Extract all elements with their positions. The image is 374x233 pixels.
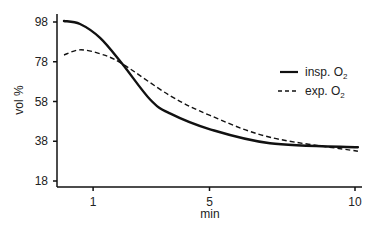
x-tick-label: 10 <box>348 195 362 209</box>
y-axis-title: vol % <box>12 85 26 115</box>
x-ticks: 1510 <box>90 187 362 209</box>
y-tick-label: 78 <box>35 55 49 69</box>
x-axis-title: min <box>200 207 219 221</box>
legend-item-exp-o2: exp. O2 <box>278 84 345 100</box>
x-tick-label: 1 <box>90 195 97 209</box>
y-tick-label: 58 <box>35 95 49 109</box>
y-ticks: 1838587898 <box>35 15 57 188</box>
oxygen-concentration-chart: 1838587898 1510 vol % min insp. O2 exp. … <box>0 0 374 233</box>
y-tick-label: 38 <box>35 134 49 148</box>
legend: insp. O2 exp. O2 <box>278 65 348 100</box>
y-axis-title-text: vol % <box>12 85 26 115</box>
y-tick-label: 18 <box>35 174 49 188</box>
legend-label-exp: exp. O2 <box>305 84 345 100</box>
y-tick-label: 98 <box>35 15 49 29</box>
legend-item-insp-o2: insp. O2 <box>280 65 348 81</box>
legend-label-insp: insp. O2 <box>305 65 348 81</box>
